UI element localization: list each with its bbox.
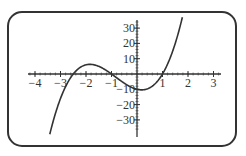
y-tick-label: −20 — [116, 98, 135, 112]
y-tick-label: 10 — [123, 52, 135, 66]
x-tick-label: −2 — [80, 76, 93, 90]
plot-area: −4−3−2−1123302010−10−20−30 — [0, 0, 246, 156]
y-tick-label: 30 — [123, 21, 135, 35]
y-tick-label: 20 — [123, 36, 135, 50]
x-tick-label: −4 — [29, 76, 42, 90]
y-tick-label: −30 — [116, 113, 135, 127]
x-tick-label: 2 — [185, 76, 191, 90]
x-tick-label: 3 — [211, 76, 217, 90]
